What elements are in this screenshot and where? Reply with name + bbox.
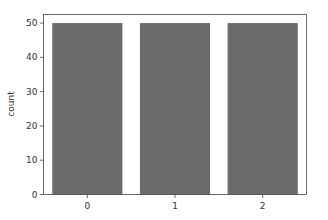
y-axis-ticks: 01020304050 bbox=[26, 18, 43, 199]
y-tick-label: 10 bbox=[26, 155, 38, 165]
bars-group bbox=[52, 23, 297, 194]
x-tick-label: 2 bbox=[260, 201, 266, 211]
bar-2 bbox=[228, 23, 298, 194]
y-tick-label: 20 bbox=[26, 121, 38, 131]
x-tick-label: 1 bbox=[172, 201, 178, 211]
bar-0 bbox=[52, 23, 122, 194]
y-tick-label: 30 bbox=[26, 87, 38, 97]
y-axis-label: count bbox=[6, 91, 16, 117]
x-axis-ticks: 012 bbox=[84, 195, 265, 211]
y-tick-label: 0 bbox=[32, 190, 38, 200]
bar-1 bbox=[140, 23, 210, 194]
bar-chart: 01020304050 012 count bbox=[0, 0, 328, 220]
y-tick-label: 50 bbox=[26, 18, 38, 28]
x-tick-label: 0 bbox=[84, 201, 90, 211]
y-tick-label: 40 bbox=[26, 52, 38, 62]
